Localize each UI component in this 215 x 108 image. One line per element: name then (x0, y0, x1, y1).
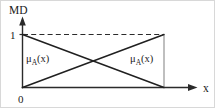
curve-label-right: μA(x) (130, 53, 154, 67)
y-axis-tick-label-one: 1 (10, 29, 16, 41)
figure-container: MD 1 0 x μA(x) μA(x) (0, 0, 215, 108)
x-axis-title: x (203, 82, 209, 94)
y-axis-title: MD (9, 4, 28, 16)
curve-label-left: μA(x) (26, 53, 50, 67)
origin-label-zero: 0 (18, 93, 24, 105)
curve-label-left-arg: (x) (37, 53, 50, 65)
x-axis-arrow-icon (188, 84, 198, 91)
membership-degree-diagram: MD 1 0 x μA(x) μA(x) (1, 1, 215, 108)
curve-label-right-arg: (x) (141, 53, 154, 65)
y-axis-arrow-icon (19, 17, 26, 26)
